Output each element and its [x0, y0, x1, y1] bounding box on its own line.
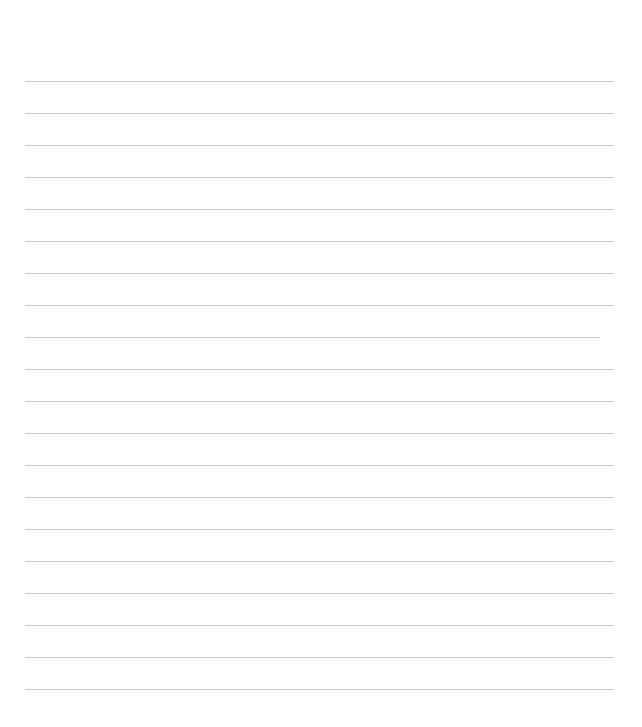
- ruled-line: [25, 465, 614, 466]
- ruled-line: [25, 657, 614, 658]
- ruled-line: [25, 593, 614, 594]
- lined-paper-page: [0, 0, 642, 727]
- ruled-line: [25, 145, 614, 146]
- ruled-line: [25, 337, 600, 338]
- ruled-line: [25, 625, 614, 626]
- ruled-line: [25, 401, 614, 402]
- ruled-line: [25, 433, 614, 434]
- ruled-line: [25, 369, 614, 370]
- ruled-line: [25, 305, 614, 306]
- ruled-line: [25, 177, 614, 178]
- ruled-line: [25, 689, 614, 690]
- ruled-line: [25, 497, 614, 498]
- ruled-line: [25, 529, 614, 530]
- ruled-line: [25, 209, 614, 210]
- ruled-line: [25, 561, 614, 562]
- ruled-line: [25, 241, 614, 242]
- ruled-line: [25, 273, 614, 274]
- ruled-line: [25, 113, 614, 114]
- ruled-line: [25, 81, 614, 82]
